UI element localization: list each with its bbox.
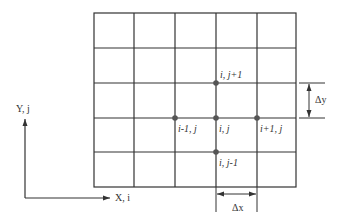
finite-difference-diagram: i, j+1 i, j i-1, j i+1, j i, j-1 Δy Δx Y… (0, 0, 345, 221)
coordinate-axes (25, 119, 110, 198)
dx-label: Δx (232, 203, 243, 213)
dy-label: Δy (315, 95, 326, 105)
node-bottom (213, 149, 219, 155)
node-left (172, 115, 178, 121)
node-right (254, 115, 260, 121)
x-axis-label: X, i (115, 193, 130, 203)
node-left-label: i-1, j (178, 124, 197, 134)
y-axis-label: Y, j (16, 104, 30, 114)
node-top (213, 80, 219, 86)
node-top-label: i, j+1 (220, 70, 242, 80)
node-center-label: i, j (219, 124, 230, 134)
grid-lines (94, 13, 296, 187)
node-right-label: i+1, j (260, 124, 282, 134)
node-center (213, 115, 219, 121)
node-bottom-label: i, j-1 (219, 158, 238, 168)
grid-drawing (0, 0, 345, 221)
